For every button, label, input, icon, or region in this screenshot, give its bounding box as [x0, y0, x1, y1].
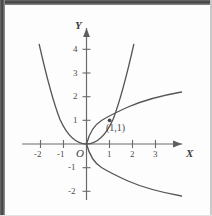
x-axis-arrow-icon [173, 141, 182, 148]
y-tick-label-neg1: -1 [68, 163, 76, 172]
y-tick-label-neg2: -2 [68, 187, 76, 196]
y-tick-label-4: 4 [73, 45, 78, 54]
y-axis-label: Y [75, 20, 82, 31]
coordinate-plot [0, 0, 212, 216]
x-tick-label-neg1: -1 [57, 150, 65, 159]
y-tick-label-2: 2 [73, 92, 78, 101]
x-tick-label-1: 1 [107, 150, 112, 159]
y-tick-label-1: 1 [73, 116, 78, 125]
x-axis-label: X [186, 148, 193, 159]
figure-panel: -2 -1 1 2 3 4 3 2 1 -1 -2 O Y X (1,1) [0, 0, 212, 216]
y-axis-arrow-icon [83, 28, 90, 37]
axes-group [22, 28, 182, 200]
annotation-point-1-1: (1,1) [106, 123, 125, 133]
x-tick-label-3: 3 [153, 150, 158, 159]
origin-label: O [76, 148, 84, 159]
x-tick-label-neg2: -2 [34, 150, 42, 159]
y-tick-label-3: 3 [73, 69, 78, 78]
curve-y-equals-sqrt-x [87, 92, 182, 144]
x-tick-label-2: 2 [130, 150, 135, 159]
